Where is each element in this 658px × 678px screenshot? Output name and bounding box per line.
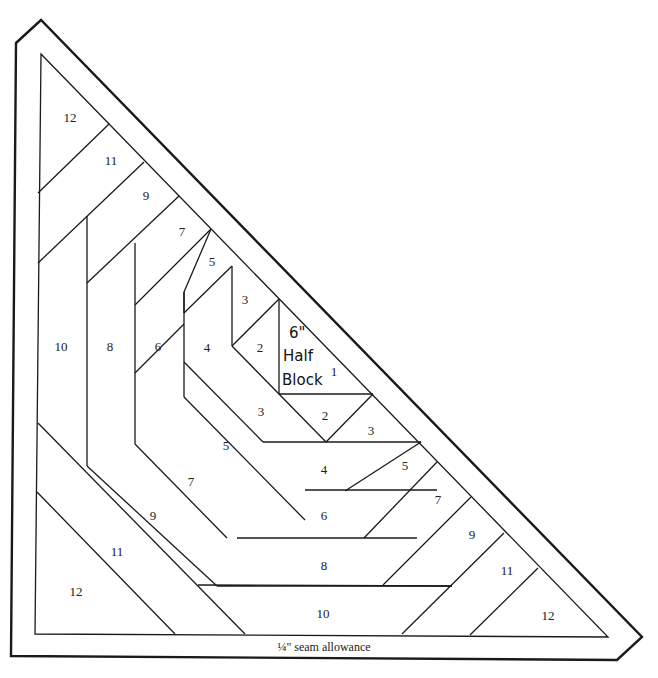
piece-12-bottom-left-label: 12 [70, 584, 83, 599]
piece-8-bottom-label: 8 [321, 558, 328, 573]
piece-10-bottom-label: 10 [317, 606, 330, 621]
center-label-block: Block [282, 371, 323, 389]
piece-5-upper-label: 5 [209, 254, 216, 269]
quilt-pattern-diagram: 1223334455566777889991010111111121212 6"… [0, 0, 658, 678]
piece-7-left-label: 7 [188, 474, 195, 489]
piece-labels: 1223334455566777889991010111111121212 [55, 110, 555, 623]
piece-6-left-label: 6 [155, 339, 162, 354]
center-label-half: Half [283, 347, 314, 365]
piece-2-upper-label: 2 [257, 340, 264, 355]
piece-11-upper-label: 11 [105, 153, 118, 168]
piece-7-upper-label: 7 [179, 224, 186, 239]
piece-9-left-label: 9 [150, 508, 157, 523]
piece-6-bottom-label: 6 [321, 508, 328, 523]
piece-2-lower-label: 2 [322, 408, 329, 423]
piece-9-upper-label: 9 [143, 188, 150, 203]
piece-7-right-label: 7 [435, 492, 442, 507]
piece-9-right-label: 9 [469, 527, 476, 542]
piece-12-top-label: 12 [64, 110, 77, 125]
piece-4-bottom-label: 4 [321, 462, 328, 477]
piece-4-left-label: 4 [204, 340, 211, 355]
piece-5-right-label: 5 [402, 458, 409, 473]
piece-5-left-label: 5 [223, 438, 230, 453]
piece-8-left-label: 8 [107, 339, 114, 354]
piece-10-left-label: 10 [55, 339, 68, 354]
piece-3-right-label: 3 [368, 423, 375, 438]
piece-11-right-label: 11 [501, 563, 514, 578]
seam-allowance-label: ¼" seam allowance [277, 640, 370, 654]
piece-12-bottom-right-label: 12 [542, 608, 555, 623]
piece-11-left-label: 11 [111, 544, 124, 559]
piece-1-label: 1 [331, 364, 338, 379]
piece-3-left-label: 3 [258, 404, 265, 419]
piece-3-upper-label: 3 [242, 292, 249, 307]
center-label-size: 6" [289, 324, 305, 342]
